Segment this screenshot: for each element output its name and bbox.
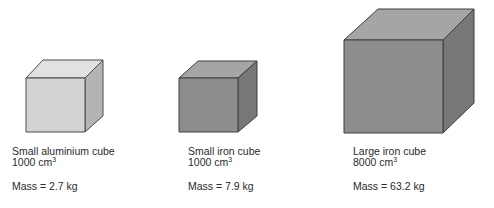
volume-unit: cm: [379, 156, 393, 168]
cube-mass: Mass = 63.2 kg: [353, 181, 426, 192]
cube-mass: Mass = 7.9 kg: [188, 181, 260, 192]
volume-exponent: 3: [393, 156, 397, 163]
large-iron-cube: [344, 9, 474, 133]
cube-front-face: [344, 40, 443, 133]
small-aluminium-cube-caption: Small aluminium cube 1000 cm3 Mass = 2.7…: [12, 146, 115, 192]
cube-volume: 8000 cm3: [353, 157, 426, 168]
cube-front-face: [26, 78, 85, 132]
volume-value: 1000: [12, 156, 35, 168]
volume-exponent: 3: [228, 156, 232, 163]
volume-unit: cm: [38, 156, 52, 168]
cube-mass: Mass = 2.7 kg: [12, 181, 115, 192]
cube-front-face: [179, 78, 238, 132]
volume-exponent: 3: [52, 156, 56, 163]
small-iron-cube: [179, 61, 257, 132]
small-aluminium-cube: [26, 60, 103, 132]
cube-volume: 1000 cm3: [188, 157, 260, 168]
volume-unit: cm: [214, 156, 228, 168]
large-iron-cube-caption: Large iron cube 8000 cm3 Mass = 63.2 kg: [353, 146, 426, 192]
volume-value: 1000: [188, 156, 211, 168]
small-iron-cube-caption: Small iron cube 1000 cm3 Mass = 7.9 kg: [188, 146, 260, 192]
volume-value: 8000: [353, 156, 376, 168]
cube-volume: 1000 cm3: [12, 157, 115, 168]
